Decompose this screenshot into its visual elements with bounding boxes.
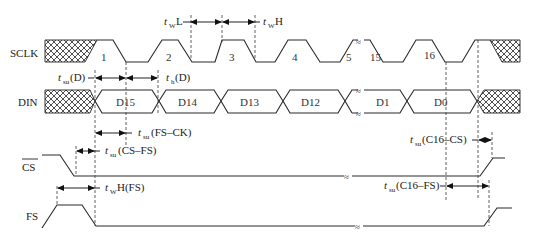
svg-text:su: su [143,133,150,141]
label-tw-l: t W L [164,15,183,30]
cs-label: CS [22,161,35,173]
guide-lines [57,15,492,226]
clock-number-5: 5 [346,51,352,63]
din-hatch-end [477,90,520,113]
data-bit-d1: D1 [376,96,389,108]
sclk-label: SCLK [10,47,38,59]
cs-break-icon: ≈ [344,172,349,182]
svg-text:t: t [105,144,109,156]
svg-text:su: su [110,151,117,159]
label-tsu-d: t su (D) [58,71,86,86]
svg-text:(D): (D) [175,71,191,84]
clock-number-2: 2 [166,51,172,63]
clock-number-15: 15 [370,51,382,63]
svg-text:su: su [415,140,422,148]
clock-number-4: 4 [292,51,298,63]
svg-text:W: W [268,22,275,30]
sclk-hatch-start [45,40,97,62]
svg-text:t: t [263,15,267,27]
svg-text:t: t [58,71,62,83]
data-bit-d13: D13 [240,96,259,108]
sclk-break-icon: ≈ [356,37,361,47]
data-bit-d12: D12 [301,96,320,108]
din-break-icon-top: ≈ [356,86,361,96]
svg-text:(FS–CK): (FS–CK) [151,126,192,139]
svg-text:(C16–CS): (C16–CS) [422,133,467,146]
svg-text:t: t [105,181,109,193]
svg-text:su: su [63,78,70,86]
din-signal: DIN ≈ ≈ D15 D14 D13 D12 D1 D0 [18,86,520,119]
cs-signal: CS ≈ [22,155,505,182]
din-label: DIN [18,96,38,108]
sclk-hatch-end [490,40,520,62]
label-tw-h-fs: t W H(FS) [105,181,145,196]
svg-text:t: t [384,179,388,191]
label-tw-h: t W H [263,15,283,30]
din-hatch-start [45,90,95,113]
svg-text:t: t [166,71,170,83]
label-tsu-c16-fs: t su (C16–FS) [384,179,440,194]
svg-text:W: W [110,188,117,196]
timing-diagram: SCLK ≈ 1 2 3 4 5 15 16 DIN ≈ ≈ D15 D14 D… [0,0,545,247]
svg-text:W: W [169,22,176,30]
svg-text:t: t [164,15,168,27]
svg-text:(CS–FS): (CS–FS) [118,144,157,157]
svg-text:t: t [410,133,414,145]
data-bit-d14: D14 [178,96,197,108]
svg-text:L: L [176,15,183,27]
clock-number-16: 16 [424,49,436,61]
svg-text:H: H [275,15,283,27]
label-tsu-fs-ck: t su (FS–CK) [138,126,192,141]
svg-text:(C16–FS): (C16–FS) [396,179,440,192]
svg-text:(D): (D) [70,71,86,84]
fs-signal: FS ≈ [26,205,512,232]
svg-text:t: t [138,126,142,138]
sclk-signal: SCLK ≈ 1 2 3 4 5 15 16 [10,37,520,63]
din-break-icon-bottom: ≈ [356,109,361,119]
label-th-d: t h (D) [166,71,191,86]
label-tsu-cs-fs: t su (CS–FS) [105,144,157,159]
fs-break-icon: ≈ [355,222,360,232]
fs-label: FS [26,210,38,222]
svg-text:H(FS): H(FS) [117,181,145,194]
clock-number-3: 3 [229,51,235,63]
label-tsu-c16-cs: t su (C16–CS) [410,133,467,148]
svg-text:su: su [389,186,396,194]
clock-number-1: 1 [101,51,107,63]
